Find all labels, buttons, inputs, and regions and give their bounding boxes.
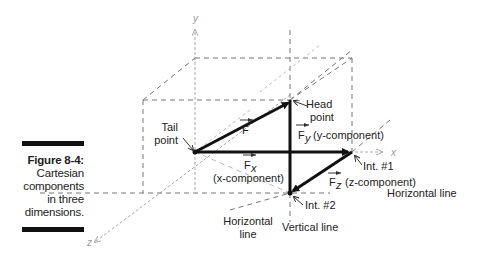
x-axis-label: x xyxy=(390,147,397,158)
vertical-line-label: Vertical line xyxy=(282,221,338,233)
fy-label: F xyxy=(298,129,305,141)
int2-dot xyxy=(288,191,293,196)
head-point-label: Head xyxy=(306,98,332,110)
bounding-box-dashes xyxy=(40,30,390,222)
z-axis-label: z xyxy=(86,237,92,248)
svg-text:z: z xyxy=(335,179,342,191)
y-axis-label: y xyxy=(192,13,199,24)
horizontal-line-bottom-label: Horizontal xyxy=(223,215,273,227)
fx-desc: (x-component) xyxy=(213,172,284,184)
fz-label: F xyxy=(329,176,336,188)
svg-text:y: y xyxy=(304,132,312,144)
vector-fz xyxy=(293,152,352,191)
svg-text:point: point xyxy=(154,134,178,146)
svg-text:line: line xyxy=(239,228,256,240)
int1-label: Int. #1 xyxy=(363,160,394,172)
vector-f-label: F xyxy=(242,124,249,136)
fy-desc: (y-component) xyxy=(313,129,384,141)
vector-diagram: y x z Tail point Head point F F y (y-com… xyxy=(0,0,481,259)
svg-text:point: point xyxy=(310,111,334,123)
tail-point-dot xyxy=(193,150,198,155)
tail-point-label: Tail xyxy=(161,121,178,133)
int2-label: Int. #2 xyxy=(305,199,336,211)
fx-label: F xyxy=(244,159,251,171)
horizontal-line-right-label: Horizontal line xyxy=(387,187,457,199)
